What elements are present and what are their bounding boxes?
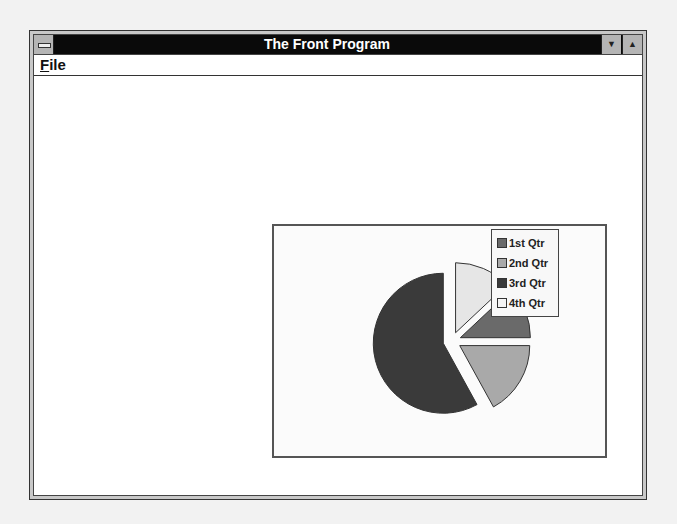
app-window: The Front Program ▼ ▲ File 1st Qtr 2nd Q… [29, 30, 647, 500]
legend-item-1st-qtr: 1st Qtr [497, 234, 544, 252]
menu-file-mnemonic: F [40, 56, 49, 73]
legend-swatch [497, 298, 507, 308]
menu-file[interactable]: File [40, 56, 66, 73]
title-bar[interactable]: The Front Program ▼ ▲ [34, 35, 642, 55]
system-menu-icon [38, 43, 51, 48]
window-title: The Front Program [54, 35, 600, 54]
menu-file-rest: ile [49, 56, 66, 73]
chart-legend: 1st Qtr 2nd Qtr 3rd Qtr 4th Qtr [491, 229, 559, 317]
maximize-icon: ▲ [628, 39, 637, 49]
legend-swatch [497, 278, 507, 288]
pie-chart: 1st Qtr 2nd Qtr 3rd Qtr 4th Qtr [272, 224, 607, 458]
window-frame: The Front Program ▼ ▲ File 1st Qtr 2nd Q… [33, 34, 643, 496]
legend-item-4th-qtr: 4th Qtr [497, 294, 545, 312]
minimize-icon: ▼ [607, 39, 616, 49]
maximize-button[interactable]: ▲ [622, 35, 642, 54]
legend-swatch [497, 258, 507, 268]
legend-item-3rd-qtr: 3rd Qtr [497, 274, 546, 292]
legend-item-2nd-qtr: 2nd Qtr [497, 254, 548, 272]
menu-bar: File [34, 55, 642, 76]
minimize-button[interactable]: ▼ [601, 35, 621, 54]
system-menu-button[interactable] [34, 35, 54, 54]
client-area: 1st Qtr 2nd Qtr 3rd Qtr 4th Qtr [34, 76, 642, 495]
legend-swatch [497, 238, 507, 248]
